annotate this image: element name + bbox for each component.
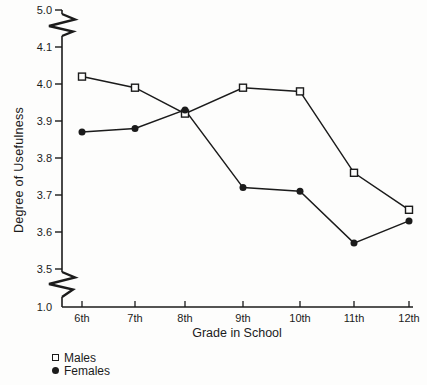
x-tick-label: 9th: [235, 312, 250, 324]
males-point-6th: [79, 73, 86, 80]
x-tick-label: 7th: [127, 312, 142, 324]
y-axis-top-label: 5.0: [37, 4, 52, 16]
y-tick-label: 3.8: [37, 152, 52, 164]
y-tick-label: 4.1: [37, 41, 52, 53]
females-point-12th: [406, 217, 413, 224]
males-point-10th: [297, 88, 304, 95]
females-point-10th: [297, 188, 304, 195]
y-tick-label: 3.7: [37, 189, 52, 201]
legend-label-males: Males: [64, 351, 96, 365]
females-point-8th: [182, 106, 189, 113]
x-axis-title: Grade in School: [192, 326, 282, 340]
females-point-9th: [240, 184, 247, 191]
females-point-11th: [351, 240, 358, 247]
chart-figure: 3.53.63.73.83.94.04.15.01.06th7th8th9th1…: [0, 0, 427, 385]
females-point-7th: [132, 125, 139, 132]
x-tick-label: 6th: [74, 312, 89, 324]
x-tick-label: 12th: [398, 312, 419, 324]
males-point-12th: [406, 206, 413, 213]
filled-circle-marker-icon: [52, 367, 59, 374]
y-tick-label: 4.0: [37, 78, 52, 90]
y-tick-label: 3.5: [37, 263, 52, 275]
open-square-marker-icon: [52, 354, 59, 361]
x-tick-label: 11th: [344, 312, 365, 324]
legend-item-females: Females: [52, 364, 110, 377]
males-point-7th: [132, 84, 139, 91]
legend-item-males: Males: [52, 351, 110, 364]
x-tick-label: 10th: [289, 312, 310, 324]
males-point-11th: [351, 169, 358, 176]
males-point-9th: [240, 84, 247, 91]
y-tick-label: 3.6: [37, 226, 52, 238]
y-axis-break-top-icon: [49, 14, 75, 36]
x-tick-label: 8th: [177, 312, 192, 324]
legend: Males Females: [52, 351, 110, 377]
y-axis-break-bottom-icon: [49, 272, 75, 297]
y-axis-bottom-label: 1.0: [37, 301, 52, 313]
y-tick-label: 3.9: [37, 115, 52, 127]
y-axis-title: Degree of Usefulness: [12, 107, 26, 233]
females-point-6th: [79, 129, 86, 136]
legend-label-females: Females: [64, 364, 110, 378]
